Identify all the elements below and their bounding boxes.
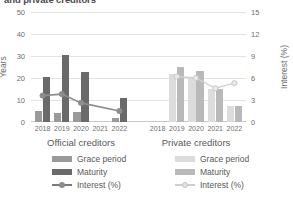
legend-official-creditors: Grace periodMaturityInterest (%): [52, 152, 126, 191]
legend-swatch-icon: [175, 156, 195, 162]
y-tick-label: 30: [5, 52, 25, 61]
interest-marker: [232, 81, 237, 86]
interest-marker: [213, 86, 218, 91]
interest-line: [177, 77, 235, 89]
legend-line-icon: [52, 181, 72, 189]
y-tick-label: 20: [5, 74, 25, 83]
panel-label: Private creditors: [136, 137, 256, 148]
y2-tick-label: 6: [251, 74, 267, 83]
x-tick-label: 2022: [221, 125, 247, 132]
chart-title: and private creditors: [4, 0, 96, 5]
legend-label: Maturity: [77, 167, 107, 177]
chart-figure: and private creditors Years Interest (%)…: [0, 0, 293, 200]
legend-label: Grace period: [77, 154, 126, 164]
interest-marker: [193, 75, 198, 80]
interest-marker: [117, 108, 122, 113]
y2-tick-label: 3: [251, 96, 267, 105]
legend-label: Maturity: [200, 167, 230, 177]
legend-swatch-icon: [175, 169, 195, 175]
y-tick-label: 40: [5, 30, 25, 39]
legend-line-icon: [175, 181, 195, 189]
legend-item[interactable]: Interest (%): [175, 178, 249, 191]
x-tick-label: 2022: [106, 125, 132, 132]
plot-area: 01020304050 03691215 2018201920202021202…: [31, 12, 246, 122]
legend-item[interactable]: Grace period: [52, 152, 126, 165]
y2-axis-label: Interest (%): [279, 45, 289, 89]
legend-item[interactable]: Maturity: [175, 165, 249, 178]
panel-label: Official creditors: [21, 137, 141, 148]
legend-swatch-icon: [52, 156, 72, 162]
legend-item[interactable]: Grace period: [175, 152, 249, 165]
y-tick-label: 50: [5, 8, 25, 17]
legend-item[interactable]: Interest (%): [52, 178, 126, 191]
interest-marker: [78, 100, 83, 105]
y2-tick-label: 15: [251, 8, 267, 17]
legend-swatch-icon: [52, 169, 72, 175]
legend-label: Interest (%): [200, 180, 244, 190]
legend-label: Grace period: [200, 154, 249, 164]
interest-marker: [40, 93, 45, 98]
y-tick-label: 0: [5, 118, 25, 127]
legend-label: Interest (%): [77, 180, 121, 190]
interest-line-layer: [31, 12, 246, 122]
legend-item[interactable]: Maturity: [52, 165, 126, 178]
y2-tick-label: 9: [251, 52, 267, 61]
interest-marker: [174, 74, 179, 79]
y2-tick-label: 12: [251, 30, 267, 39]
y-tick-label: 10: [5, 96, 25, 105]
legend-private-creditors: Grace periodMaturityInterest (%): [175, 152, 249, 191]
interest-marker: [59, 92, 64, 97]
y2-tick-label: 0: [251, 118, 267, 127]
